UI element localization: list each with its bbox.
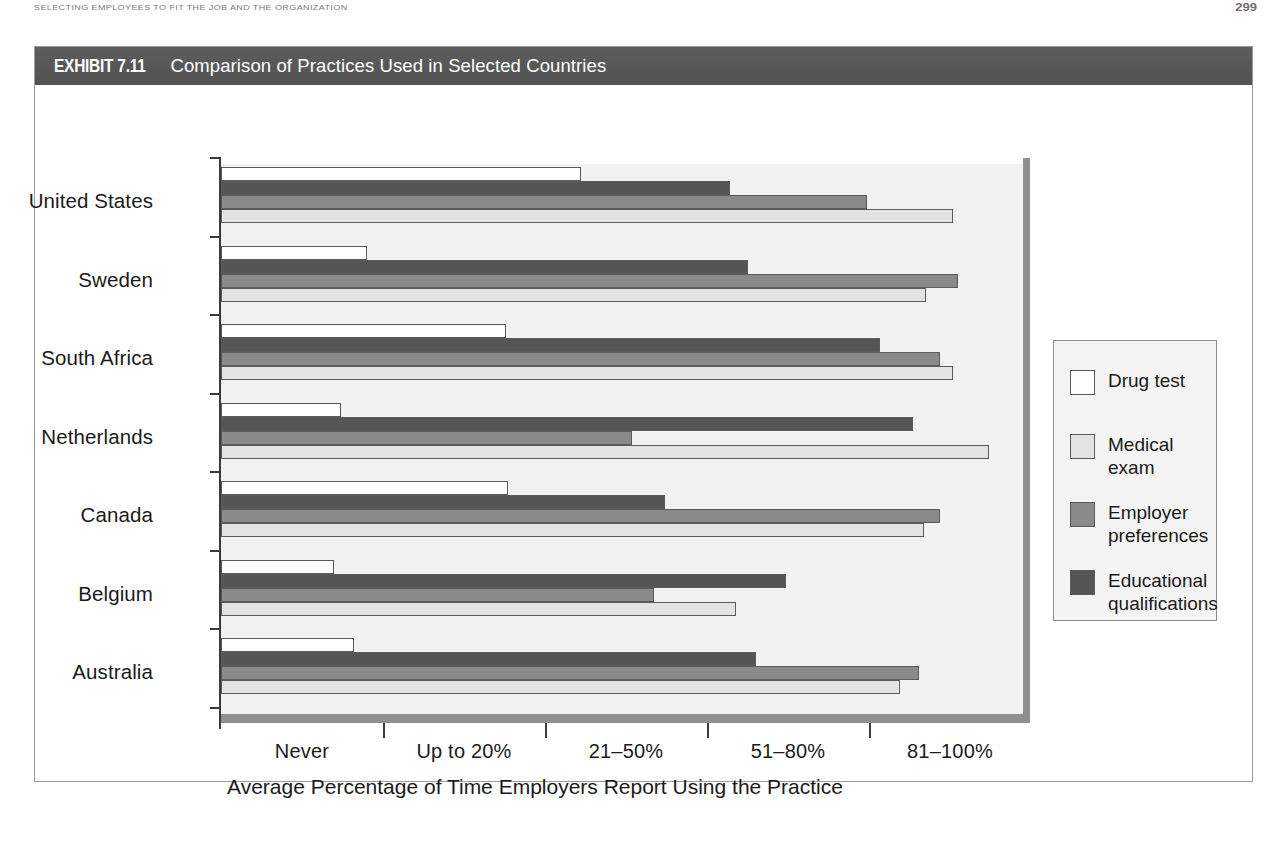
bar — [221, 574, 786, 588]
y-axis-tick — [210, 157, 221, 159]
bar — [221, 195, 867, 209]
legend-item[interactable]: Employer preferences — [1070, 501, 1208, 547]
bar — [221, 260, 748, 274]
exhibit-title: Comparison of Practices Used in Selected… — [170, 55, 606, 77]
plot-right-wall — [1023, 158, 1030, 715]
legend-label: Drug test — [1108, 369, 1185, 392]
legend-item[interactable]: Medical exam — [1070, 433, 1173, 479]
bar — [221, 338, 880, 352]
bar — [221, 495, 665, 509]
x-axis-tick-label: 81–100% — [907, 740, 993, 763]
legend-swatch-icon — [1070, 434, 1095, 459]
y-axis-tick — [210, 550, 221, 552]
legend-swatch-icon — [1070, 370, 1095, 395]
y-axis-tick — [210, 236, 221, 238]
chart-legend: Drug testMedical examEmployer preference… — [1053, 340, 1217, 621]
bar — [221, 638, 354, 652]
bar — [221, 324, 506, 338]
running-head: SELECTING EMPLOYEES TO FIT THE JOB AND T… — [34, 4, 348, 12]
bar — [221, 274, 958, 288]
bar — [221, 181, 730, 195]
bar — [221, 523, 924, 537]
y-axis-tick — [210, 628, 221, 630]
bar — [221, 167, 581, 181]
bar — [221, 680, 900, 694]
bar — [221, 288, 926, 302]
bar — [221, 652, 756, 666]
y-axis-label-netherlands: Netherlands — [41, 425, 153, 449]
y-axis-tick — [210, 707, 221, 709]
y-axis-tick — [210, 393, 221, 395]
bar — [221, 481, 508, 495]
legend-item[interactable]: Educational qualifications — [1070, 569, 1218, 615]
x-axis-tick — [869, 723, 871, 738]
legend-label: Employer preferences — [1108, 501, 1208, 547]
exhibit-number: EXHIBIT 7.11 — [54, 56, 146, 77]
x-axis-tick — [383, 723, 385, 738]
bar — [221, 366, 953, 380]
x-axis-tick-label: 21–50% — [589, 740, 664, 763]
legend-swatch-icon — [1070, 502, 1095, 527]
bar — [221, 403, 341, 417]
exhibit-header: EXHIBIT 7.11 Comparison of Practices Use… — [35, 47, 1252, 85]
y-axis-tick — [210, 471, 221, 473]
y-axis-tick — [210, 314, 221, 316]
bar — [221, 509, 940, 523]
x-axis-tick-label: 51–80% — [751, 740, 826, 763]
legend-swatch-icon — [1070, 570, 1095, 595]
page-number: 299 — [1235, 1, 1257, 13]
bar — [221, 246, 367, 260]
bar — [221, 417, 913, 431]
y-axis-label-united-states: United States — [29, 189, 153, 213]
bar — [221, 445, 989, 459]
x-axis-title: Average Percentage of Time Employers Rep… — [35, 775, 1035, 799]
y-axis-label-south-africa: South Africa — [41, 346, 153, 370]
y-axis-label-canada: Canada — [81, 503, 153, 527]
y-axis-label-belgium: Belgium — [78, 582, 153, 606]
bar — [221, 352, 940, 366]
bar — [221, 431, 632, 445]
legend-label: Educational qualifications — [1108, 569, 1218, 615]
bar — [221, 666, 919, 680]
bar — [221, 560, 334, 574]
plot-floor — [220, 714, 1030, 723]
bar — [221, 602, 736, 616]
x-axis-tick-label: Never — [275, 740, 329, 763]
chart-plot: United StatesSwedenSouth AfricaNetherlan… — [35, 85, 1252, 782]
x-axis-tick — [707, 723, 709, 738]
x-axis-tick — [545, 723, 547, 738]
y-axis-label-sweden: Sweden — [78, 268, 153, 292]
legend-label: Medical exam — [1108, 433, 1173, 479]
legend-item[interactable]: Drug test — [1070, 369, 1185, 395]
bar — [221, 209, 953, 223]
bar — [221, 588, 654, 602]
exhibit-container: EXHIBIT 7.11 Comparison of Practices Use… — [34, 46, 1253, 782]
x-axis-tick-label: Up to 20% — [416, 740, 511, 763]
y-axis-label-australia: Australia — [72, 660, 153, 684]
